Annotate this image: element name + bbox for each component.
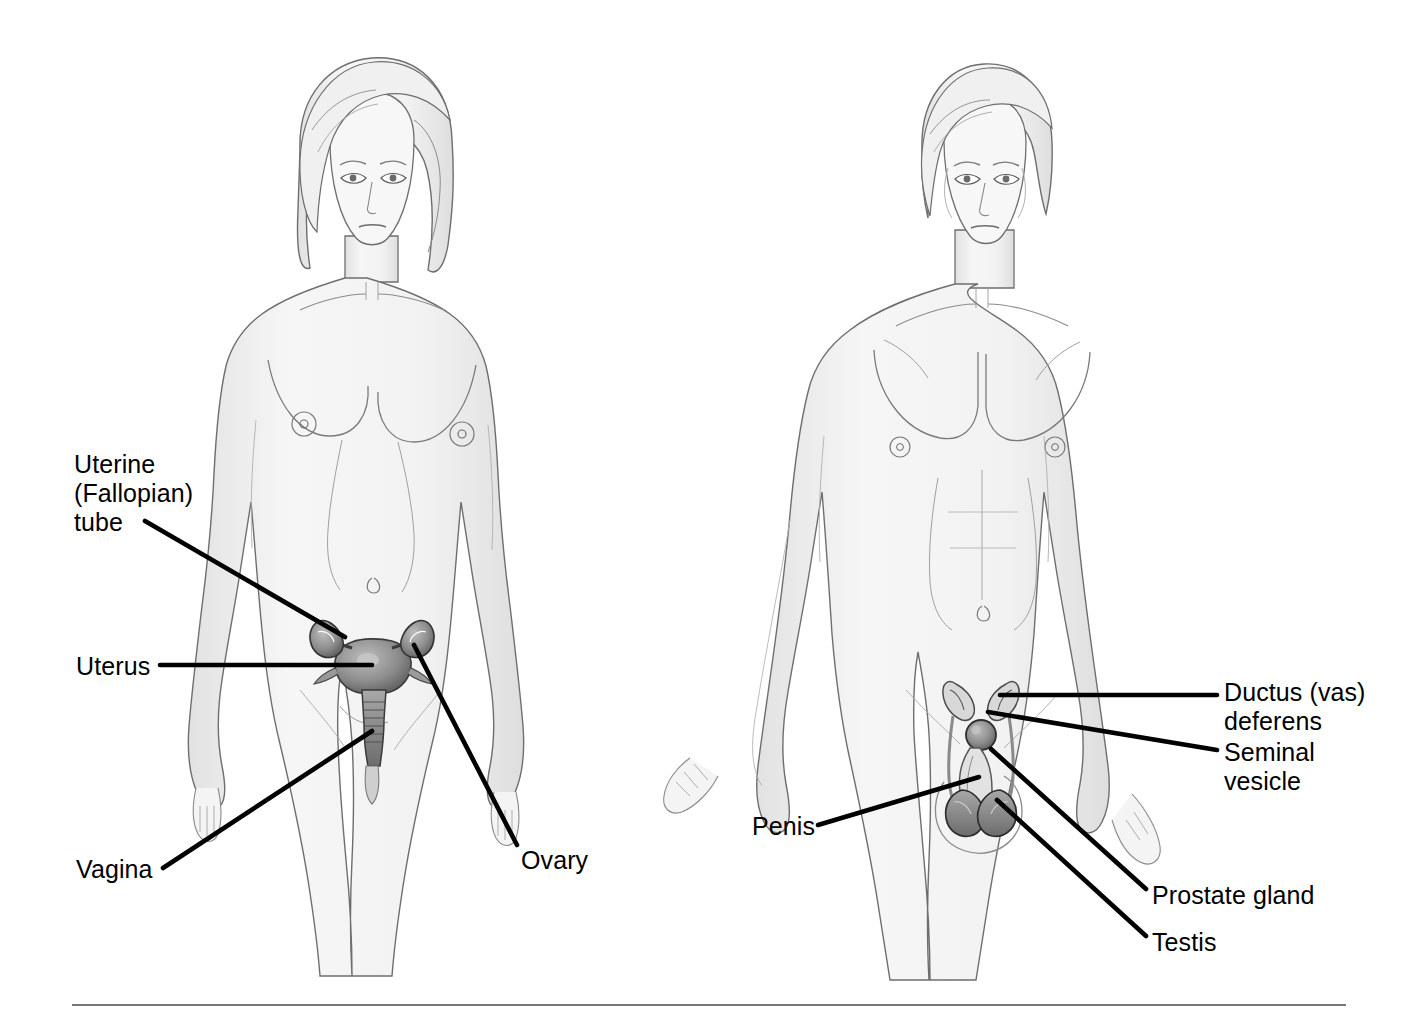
male-right-hand [1112,794,1160,864]
label-uterus: Uterus [76,652,150,681]
anatomy-illustration-canvas [0,0,1421,1020]
label-prostate-gland-text: Prostate gland [1152,881,1315,909]
label-ovary-text: Ovary [521,846,588,874]
prostate-gland-organ [966,720,996,750]
label-uterine-tube: Uterine (Fallopian) tube [74,450,193,537]
label-ovary: Ovary [521,846,588,875]
female-left-pupil [350,175,357,182]
label-vagina-text: Vagina [76,855,153,883]
female-torso [188,278,523,976]
male-figure [664,64,1161,980]
label-uterine-tube-text: Uterine (Fallopian) tube [74,450,193,536]
male-torso [757,284,1110,980]
label-ductus-vas-deferens: Ductus (vas) deferens [1224,678,1366,736]
label-seminal-vesicle: Seminal vesicle [1224,738,1315,796]
diagram-page: Uterine (Fallopian) tube Uterus Vagina O… [0,0,1421,1020]
male-left-hand [664,758,718,813]
label-seminal-vesicle-text: Seminal vesicle [1224,738,1315,795]
label-prostate-gland: Prostate gland [1152,881,1315,910]
label-penis-text: Penis [752,812,815,840]
male-right-pupil [1003,176,1010,183]
label-vagina: Vagina [76,855,153,884]
label-testis: Testis [1152,928,1217,957]
label-testis-text: Testis [1152,928,1217,956]
prostate-highlight [972,726,981,735]
male-left-pupil [964,176,971,183]
label-ductus-vas-deferens-text: Ductus (vas) deferens [1224,678,1366,735]
label-uterus-text: Uterus [76,652,150,680]
female-right-pupil [390,175,397,182]
female-figure [188,58,523,976]
label-penis: Penis [752,812,815,841]
